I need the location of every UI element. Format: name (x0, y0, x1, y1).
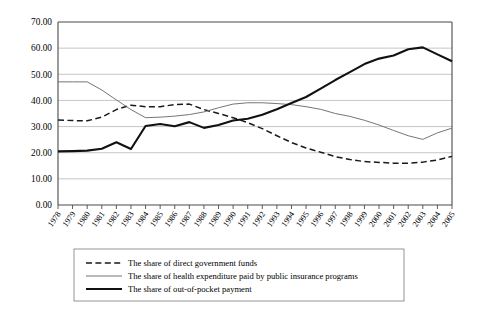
legend-item-label: The share of direct government funds (128, 258, 258, 268)
legend-item-label: The share of out-of-pocket payment (128, 284, 252, 294)
x-axis-tick-label: 1982 (104, 210, 121, 229)
x-axis-tick-label: 1983 (119, 210, 136, 229)
x-axis-tick-label: 2004 (425, 210, 442, 229)
y-axis-tick-label: 30.00 (31, 122, 52, 132)
plot-frame (58, 22, 452, 205)
series-line (58, 82, 452, 140)
x-axis-tick-label: 1989 (207, 210, 224, 229)
series-line (58, 47, 452, 151)
x-axis-tick-label: 1985 (148, 210, 165, 229)
x-axis-tick-label: 2002 (396, 210, 413, 229)
y-axis-tick-label: 50.00 (31, 70, 52, 80)
gridlines (58, 48, 452, 179)
x-axis-tick-label: 1990 (221, 210, 238, 229)
x-axis-tick-label: 1981 (90, 210, 107, 229)
legend-item-label: The share of health expenditure paid by … (128, 271, 358, 281)
x-axis-tick-label: 1988 (192, 210, 209, 229)
x-axis-tick-label: 2000 (367, 210, 384, 229)
x-axis-tick-label: 1997 (323, 210, 340, 229)
x-axis-tick-label: 1986 (163, 210, 180, 229)
x-axis-tick-label: 1987 (177, 210, 194, 229)
x-axis-tick-label: 2001 (382, 210, 399, 229)
x-axis-tick-labels: 1978197919801981198219831984198519861987… (46, 210, 457, 229)
x-axis-tick-label: 1998 (338, 210, 355, 229)
line-chart: 0.0010.0020.0030.0040.0050.0060.0070.00 … (0, 0, 477, 311)
x-axis-tick-label: 1993 (265, 210, 282, 229)
x-axis-tick-label: 2003 (411, 210, 428, 229)
chart-container: 0.0010.0020.0030.0040.0050.0060.0070.00 … (0, 0, 477, 311)
series-line (58, 104, 452, 163)
x-axis-tick-label: 1995 (294, 210, 311, 229)
x-axis-tick-label: 1979 (61, 210, 78, 229)
y-axis-tick-label: 60.00 (31, 43, 52, 53)
x-axis-tickmarks (58, 205, 452, 209)
y-axis-tick-labels: 0.0010.0020.0030.0040.0050.0060.0070.00 (31, 17, 52, 210)
x-axis-tick-label: 1991 (236, 210, 253, 229)
y-axis-tick-label: 20.00 (31, 148, 52, 158)
x-axis-tick-label: 1992 (250, 210, 267, 229)
x-axis-tick-label: 1996 (309, 210, 326, 229)
data-series-group (58, 47, 452, 163)
y-axis-tick-label: 10.00 (31, 174, 52, 184)
x-axis-tick-label: 1984 (134, 210, 151, 229)
x-axis-tick-label: 1999 (353, 210, 370, 229)
x-axis-tick-label: 1980 (75, 210, 92, 229)
y-axis-tick-label: 70.00 (31, 17, 52, 27)
y-axis-tick-label: 40.00 (31, 96, 52, 106)
x-axis-tick-label: 2005 (440, 210, 457, 229)
y-axis-tick-label: 0.00 (36, 200, 53, 210)
x-axis-tick-label: 1978 (46, 210, 63, 229)
legend: The share of direct government fundsThe … (74, 249, 404, 301)
x-axis-tick-label: 1994 (280, 210, 297, 229)
